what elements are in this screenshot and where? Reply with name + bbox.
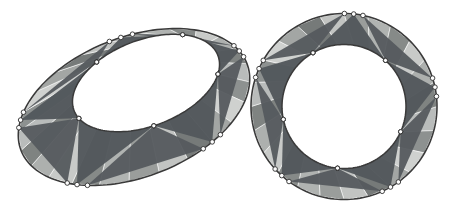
outer-vertex-marker [342,11,347,16]
outer-vertex-marker [273,167,278,172]
inner-vertex-marker [281,117,285,121]
outer-vertex-marker [85,183,90,188]
inner-vertex-marker [152,124,156,128]
figure-root [0,0,469,214]
outer-vertex-marker [261,58,266,63]
outer-vertex-marker [279,173,284,178]
outer-vertex-marker [388,185,393,190]
outer-vertex-marker [430,76,435,81]
outer-vertex-marker [257,66,262,71]
outer-vertex-marker [65,181,70,186]
inner-vertex-marker [311,51,315,55]
outer-vertex-marker [361,13,366,18]
inner-vertex-marker [95,60,99,64]
outer-vertex-marker [396,180,401,185]
outer-vertex-marker [119,35,124,40]
inner-vertex-marker [181,33,185,37]
outer-vertex-marker [351,12,356,17]
outer-vertex-marker [130,32,135,37]
outer-vertex-marker [380,189,385,194]
outer-vertex-marker [287,179,292,184]
inner-vertex-marker [383,58,387,62]
outer-vertex-marker [241,54,246,59]
geometry-figure-canvas [0,0,469,214]
outer-vertex-marker [237,49,242,54]
outer-vertex-marker [433,85,438,90]
inner-vertex-marker [216,72,220,76]
outer-vertex-marker [210,140,215,145]
outer-vertex-marker [107,39,112,44]
outer-vertex-marker [21,110,26,115]
outer-vertex-marker [253,75,258,80]
inner-vertex-marker [335,166,339,170]
outer-vertex-marker [232,43,237,48]
outer-vertex-marker [434,94,439,99]
outer-vertex-marker [18,118,23,123]
inner-vertex-marker [399,130,403,134]
outer-vertex-marker [218,132,223,137]
outer-vertex-marker [201,146,206,151]
outer-vertex-marker [17,125,22,130]
inner-vertex-marker [77,116,81,120]
outer-vertex-marker [75,182,80,187]
